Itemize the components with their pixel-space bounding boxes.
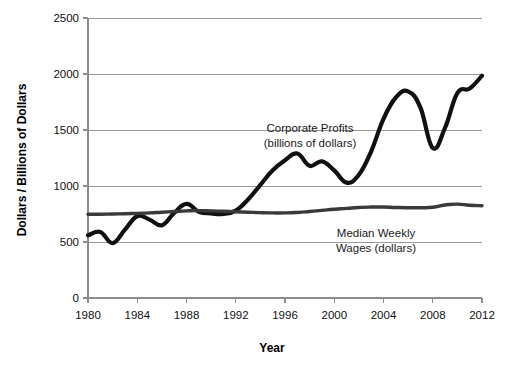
chart-container: 05001000150020002500 1980198419881992199… xyxy=(0,0,518,370)
x-axis-title: Year xyxy=(259,341,285,355)
y-axis-title: Dollars / Billions of Dollars xyxy=(15,83,29,236)
median-weekly-wages-label: Median WeeklyWages (dollars) xyxy=(336,227,416,254)
x-tick-label-1980: 1980 xyxy=(75,309,101,321)
x-tick-label-1984: 1984 xyxy=(125,309,151,321)
x-tick-label-2000: 2000 xyxy=(322,309,348,321)
x-tick-label-2012: 2012 xyxy=(469,309,495,321)
y-tick-label-1500: 1500 xyxy=(53,124,79,136)
y-tick-label-2000: 2000 xyxy=(53,68,79,80)
x-tick-label-2004: 2004 xyxy=(371,309,397,321)
y-tick-label-1000: 1000 xyxy=(53,180,79,192)
line-chart: 05001000150020002500 1980198419881992199… xyxy=(0,0,518,370)
x-tick-label-1988: 1988 xyxy=(174,309,200,321)
y-tick-label-0: 0 xyxy=(73,292,79,304)
data-series-group xyxy=(88,76,482,243)
corporate-profits-label-line1: Corporate Profits xyxy=(267,122,354,134)
x-tick-label-1996: 1996 xyxy=(272,309,298,321)
x-axis-ticks: 198019841988199219962000200420082012 xyxy=(75,298,495,321)
x-tick-label-1992: 1992 xyxy=(223,309,249,321)
y-axis-ticks: 05001000150020002500 xyxy=(53,12,88,304)
series-line-corporate-profits xyxy=(88,76,482,243)
corporate-profits-label: Corporate Profits(billions of dollars) xyxy=(264,122,357,149)
series-line-median-weekly-wages xyxy=(88,204,482,214)
median-weekly-wages-label-line1: Median Weekly xyxy=(337,227,416,239)
y-tick-label-2500: 2500 xyxy=(53,12,79,24)
median-weekly-wages-label-line2: Wages (dollars) xyxy=(336,242,416,254)
corporate-profits-label-line2: (billions of dollars) xyxy=(264,137,357,149)
y-tick-label-500: 500 xyxy=(60,236,79,248)
series-annotations: Corporate Profits(billions of dollars)Me… xyxy=(264,122,417,254)
x-tick-label-2008: 2008 xyxy=(420,309,446,321)
